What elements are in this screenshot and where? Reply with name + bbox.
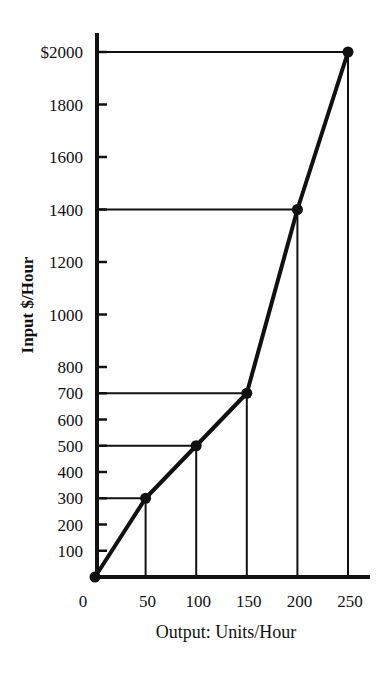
y-tick-label: 1400 [49, 201, 83, 220]
data-point-marker [343, 47, 354, 58]
y-tick-label: $2000 [41, 43, 84, 62]
y-axis-title: Input $/Hour [18, 256, 37, 353]
x-tick-label: 150 [236, 592, 262, 611]
data-point-marker [241, 388, 252, 399]
x-tick-label: 0 [79, 592, 88, 611]
x-tick-label: 250 [337, 592, 363, 611]
y-tick-label: 700 [58, 384, 84, 403]
data-point-marker [292, 204, 303, 215]
x-tick-label: 100 [185, 592, 211, 611]
x-tick-label: 50 [139, 592, 156, 611]
y-tick-label: 600 [58, 411, 84, 430]
input-output-chart: $200018001600140012001000800700600500400… [0, 0, 390, 683]
x-axis-ticks: 050100150200250 [79, 592, 363, 611]
y-tick-label: 500 [58, 437, 84, 456]
y-tick-label: 1200 [49, 253, 83, 272]
y-tick-label: 1000 [49, 306, 83, 325]
x-axis-title: Output: Units/Hour [156, 622, 297, 642]
data-point-marker [140, 493, 151, 504]
y-tick-label: 800 [58, 358, 84, 377]
y-tick-label: 400 [58, 463, 84, 482]
y-tick-label: 200 [58, 516, 84, 535]
y-tick-label: 100 [58, 542, 84, 561]
y-tick-label: 1800 [49, 96, 83, 115]
data-point-marker [90, 572, 101, 583]
drop-lines [95, 52, 348, 577]
y-tick-label: 300 [58, 489, 84, 508]
data-point-marker [191, 440, 202, 451]
y-tick-label: 1600 [49, 148, 83, 167]
data-series [90, 47, 354, 583]
x-tick-label: 200 [287, 592, 313, 611]
